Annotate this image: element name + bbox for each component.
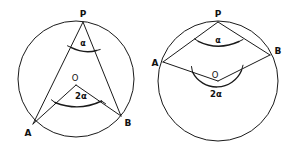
right-segment-AO — [163, 62, 218, 81]
left-point-label-P: P — [80, 9, 87, 19]
left-radius-OA — [33, 85, 76, 124]
right-point-label-A: A — [152, 58, 159, 68]
right-reflex-central-angle-label: 2α — [210, 89, 222, 99]
right-reflex-arc-tick-right — [242, 65, 244, 70]
left-point-label-A: A — [25, 128, 32, 138]
right-segment-OB — [218, 55, 270, 81]
right-diagram: P O A B α 2α — [152, 9, 282, 141]
left-point-label-O: O — [72, 73, 79, 83]
left-diagram: P O A B α 2α — [18, 9, 134, 138]
geometry-figure-canvas: P O A B α 2α P O A B — [0, 0, 294, 156]
left-inscribed-arc-tick-right — [97, 50, 101, 51]
left-central-angle-label: 2α — [75, 91, 87, 101]
figure-root: P O A B α 2α P O A B — [0, 0, 294, 156]
left-central-arc-tick-left — [51, 100, 55, 103]
left-inscribed-angle-arc — [71, 47, 97, 51]
right-point-label-P: P — [215, 9, 222, 19]
right-point-label-O: O — [212, 70, 219, 80]
right-inscribed-angle-label: α — [215, 36, 221, 45]
right-reflex-arc-tick-left — [192, 67, 193, 73]
left-inscribed-angle-label: α — [80, 39, 86, 48]
left-point-label-B: B — [125, 118, 132, 128]
left-central-angle-arc — [55, 101, 102, 107]
right-inscribed-arc-tick-right — [239, 40, 243, 42]
right-inscribed-arc-tick-left — [195, 39, 199, 42]
right-point-label-B: B — [275, 46, 282, 56]
